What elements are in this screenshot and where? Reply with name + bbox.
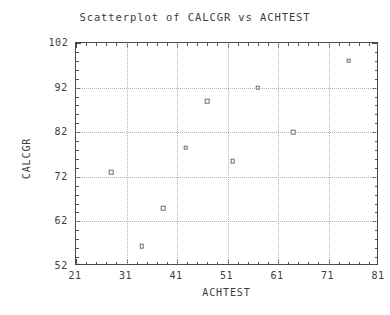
x-axis-minor-tick bbox=[349, 262, 350, 265]
vertical-gridline bbox=[278, 43, 279, 264]
y-tick-label: 52 bbox=[55, 260, 68, 271]
y-axis-minor-tick bbox=[76, 204, 79, 205]
x-axis-minor-tick-top bbox=[268, 43, 269, 46]
x-axis-minor-tick bbox=[106, 262, 107, 265]
x-axis-minor-tick-top bbox=[86, 43, 87, 46]
x-axis-minor-tick bbox=[137, 262, 138, 265]
data-point[interactable] bbox=[109, 170, 114, 175]
y-tick-label: 72 bbox=[55, 170, 68, 181]
vertical-gridline bbox=[228, 43, 229, 264]
x-axis-minor-tick bbox=[187, 262, 188, 265]
y-axis-minor-tick bbox=[76, 230, 79, 231]
data-point[interactable] bbox=[205, 99, 210, 104]
vertical-gridline bbox=[127, 43, 128, 264]
y-axis-major-tick bbox=[76, 43, 81, 44]
x-axis-title: ACHTEST bbox=[75, 287, 378, 298]
y-tick-label-text: 92 bbox=[55, 81, 68, 92]
x-axis-minor-tick bbox=[298, 262, 299, 265]
x-axis-minor-tick-top bbox=[197, 43, 198, 46]
y-axis-major-tick-right bbox=[372, 43, 377, 44]
x-axis-minor-tick bbox=[238, 262, 239, 265]
x-axis-minor-tick bbox=[116, 262, 117, 265]
x-axis-minor-tick bbox=[217, 262, 218, 265]
y-tick-label-text: 52 bbox=[55, 260, 68, 271]
x-tick-label: 41 bbox=[169, 270, 182, 281]
y-axis-minor-tick bbox=[76, 61, 79, 62]
y-axis-minor-tick bbox=[76, 168, 79, 169]
x-axis-minor-tick-top bbox=[298, 43, 299, 46]
x-axis-minor-tick-top bbox=[137, 43, 138, 46]
y-tick-label-text: 82 bbox=[55, 126, 68, 137]
x-axis-minor-tick bbox=[96, 262, 97, 265]
y-tick-label: 62 bbox=[55, 215, 68, 226]
y-axis-minor-tick bbox=[76, 105, 79, 106]
y-axis-minor-tick bbox=[76, 150, 79, 151]
x-axis-minor-tick-top bbox=[359, 43, 360, 46]
data-point[interactable] bbox=[139, 244, 144, 249]
x-axis-minor-tick bbox=[197, 262, 198, 265]
y-tick-label: 102 bbox=[48, 37, 68, 48]
horizontal-gridline bbox=[76, 132, 377, 133]
y-axis-minor-tick-right bbox=[375, 141, 378, 142]
y-axis-minor-tick bbox=[76, 97, 79, 98]
y-tick-label-text: 72 bbox=[55, 170, 68, 181]
data-point[interactable] bbox=[230, 159, 235, 164]
data-point[interactable] bbox=[256, 85, 261, 90]
x-tick-label: 61 bbox=[270, 270, 283, 281]
x-axis-minor-tick bbox=[147, 262, 148, 265]
y-axis-minor-tick-right bbox=[375, 105, 378, 106]
y-axis-minor-tick bbox=[76, 248, 79, 249]
y-axis-minor-tick-right bbox=[375, 204, 378, 205]
x-axis-minor-tick-top bbox=[238, 43, 239, 46]
vertical-gridline bbox=[329, 43, 330, 264]
y-axis-minor-tick bbox=[76, 239, 79, 240]
y-axis-minor-tick-right bbox=[375, 257, 378, 258]
x-axis-minor-tick-top bbox=[147, 43, 148, 46]
x-tick-label: 51 bbox=[220, 270, 233, 281]
y-tick-label-text: 102 bbox=[48, 37, 68, 48]
x-axis-minor-tick-top bbox=[288, 43, 289, 46]
horizontal-gridline bbox=[76, 88, 377, 89]
x-axis-minor-tick bbox=[207, 262, 208, 265]
x-axis-minor-tick-top bbox=[116, 43, 117, 46]
data-point[interactable] bbox=[346, 59, 351, 64]
data-point[interactable] bbox=[183, 146, 188, 151]
x-axis-minor-tick bbox=[318, 262, 319, 265]
x-axis-minor-tick-top bbox=[217, 43, 218, 46]
x-axis-minor-tick bbox=[167, 262, 168, 265]
x-axis-minor-tick bbox=[86, 262, 87, 265]
y-axis-minor-tick bbox=[76, 123, 79, 124]
x-tick-label: 21 bbox=[68, 270, 81, 281]
y-axis-minor-tick-right bbox=[375, 230, 378, 231]
x-axis-minor-tick-top bbox=[318, 43, 319, 46]
vertical-gridline bbox=[177, 43, 178, 264]
y-axis-minor-tick-right bbox=[375, 195, 378, 196]
y-axis-minor-tick bbox=[76, 114, 79, 115]
y-axis-minor-tick-right bbox=[375, 150, 378, 151]
plot-area bbox=[75, 42, 378, 265]
data-point[interactable] bbox=[291, 130, 296, 135]
x-axis-minor-tick-top bbox=[167, 43, 168, 46]
y-axis-minor-tick bbox=[76, 52, 79, 53]
chart-title: Scatterplot of CALCGR vs ACHTEST bbox=[0, 11, 390, 23]
y-axis-minor-tick bbox=[76, 159, 79, 160]
y-axis-minor-tick-right bbox=[375, 61, 378, 62]
y-axis-minor-tick-right bbox=[375, 168, 378, 169]
y-tick-label: 92 bbox=[55, 81, 68, 92]
x-axis-minor-tick-top bbox=[349, 43, 350, 46]
x-axis-minor-tick bbox=[258, 262, 259, 265]
x-axis-minor-tick bbox=[369, 262, 370, 265]
x-axis-minor-tick-top bbox=[106, 43, 107, 46]
y-axis-title: CALCGR bbox=[21, 129, 32, 189]
x-axis-minor-tick-top bbox=[157, 43, 158, 46]
x-axis-minor-tick-top bbox=[207, 43, 208, 46]
x-tick-label: 81 bbox=[371, 270, 384, 281]
y-axis-minor-tick-right bbox=[375, 248, 378, 249]
y-axis-minor-tick bbox=[76, 195, 79, 196]
y-axis-minor-tick bbox=[76, 141, 79, 142]
y-axis-minor-tick-right bbox=[375, 239, 378, 240]
plot-inner bbox=[76, 43, 377, 264]
y-axis-minor-tick-right bbox=[375, 70, 378, 71]
x-axis-minor-tick bbox=[268, 262, 269, 265]
data-point[interactable] bbox=[161, 206, 166, 211]
